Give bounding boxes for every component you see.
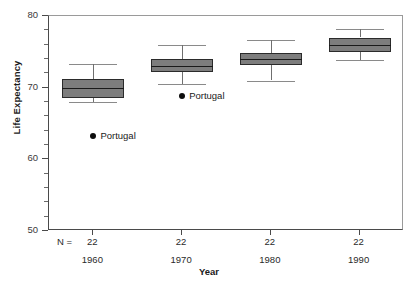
x-category-label: 1970 [146, 255, 216, 265]
whisker-lower [271, 65, 272, 81]
x-tick [359, 230, 360, 235]
whisker-cap-lower [69, 102, 117, 103]
y-tick-label: 80 [4, 10, 38, 20]
x-axis-title: Year [0, 266, 418, 277]
whisker-lower [182, 72, 183, 84]
outlier-label: Portugal [100, 131, 135, 141]
whisker-upper [360, 29, 361, 38]
median-line [329, 45, 391, 46]
box-iqr [62, 79, 124, 98]
x-category-count: 22 [324, 237, 394, 247]
x-category-column: 221990 [324, 237, 394, 264]
x-category-count: 22 [235, 237, 305, 247]
x-tick [181, 230, 182, 235]
x-category-column: 221980 [235, 237, 305, 264]
x-tick [270, 230, 271, 235]
whisker-cap-lower [247, 81, 295, 82]
y-axis-title: Life Expectancy [11, 38, 22, 158]
median-line [151, 66, 213, 67]
outlier-point [90, 133, 96, 139]
median-line [240, 59, 302, 60]
whisker-cap-lower [336, 60, 384, 61]
whisker-lower [93, 98, 94, 102]
x-category-label: 1990 [324, 255, 394, 265]
x-category-count: 22 [146, 237, 216, 247]
outlier-label: Portugal [189, 91, 224, 101]
chart-figure: Life Expectancy 50607080 PortugalPortuga… [0, 0, 418, 283]
x-tick [92, 230, 93, 235]
whisker-lower [360, 52, 361, 61]
x-category-count: 22 [57, 237, 127, 247]
y-tick-major [42, 230, 48, 231]
x-category-column: 221960 [57, 237, 127, 264]
whisker-upper [182, 45, 183, 59]
whisker-upper [271, 40, 272, 53]
outlier-point [179, 93, 185, 99]
x-category-label: 1960 [57, 255, 127, 265]
y-tick-label: 70 [4, 82, 38, 92]
x-category-column: 221970 [146, 237, 216, 264]
plot-area: PortugalPortugal [48, 15, 403, 230]
x-category-label: 1980 [235, 255, 305, 265]
y-tick-label: 60 [4, 153, 38, 163]
y-tick-label: 50 [4, 225, 38, 235]
whisker-upper [93, 64, 94, 79]
median-line [62, 88, 124, 89]
whisker-cap-lower [158, 84, 206, 85]
